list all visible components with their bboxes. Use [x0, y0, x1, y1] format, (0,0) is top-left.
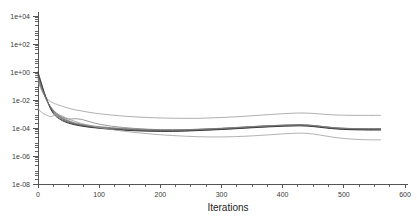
x-tick-label: 600	[399, 191, 411, 198]
x-tick-label: 300	[216, 191, 228, 198]
y-tick-label: 1e-02	[12, 97, 30, 104]
chart-svg: 1e+041e+021e+001e-021e-041e-061e-08 0100…	[0, 0, 417, 218]
series-line	[38, 73, 381, 131]
x-tick-label: 200	[154, 191, 166, 198]
y-tick-label: 1e-08	[12, 181, 30, 188]
log-convergence-chart: 1e+041e+021e+001e-021e-041e-061e-08 0100…	[0, 0, 417, 218]
y-tick-label: 1e-06	[12, 153, 30, 160]
y-tick-label: 1e+04	[10, 13, 30, 20]
x-axis-tick-labels: 0100200300400500600	[36, 191, 411, 198]
y-tick-label: 1e+02	[10, 41, 30, 48]
series-line	[38, 75, 381, 131]
y-axis-tick-labels: 1e+041e+021e+001e-021e-041e-061e-08	[10, 13, 30, 188]
series-line	[38, 108, 381, 139]
y-tick-label: 1e+00	[10, 69, 30, 76]
series-line	[38, 79, 381, 130]
x-axis-title: Iterations	[207, 202, 248, 213]
series-lines	[38, 72, 381, 140]
series-line	[38, 72, 381, 131]
series-line	[38, 78, 381, 131]
x-axis-major-ticks	[38, 184, 405, 188]
x-tick-label: 100	[93, 191, 105, 198]
y-tick-label: 1e-04	[12, 125, 30, 132]
x-tick-label: 0	[36, 191, 40, 198]
x-tick-label: 400	[277, 191, 289, 198]
x-tick-label: 500	[338, 191, 350, 198]
series-line	[38, 82, 381, 119]
